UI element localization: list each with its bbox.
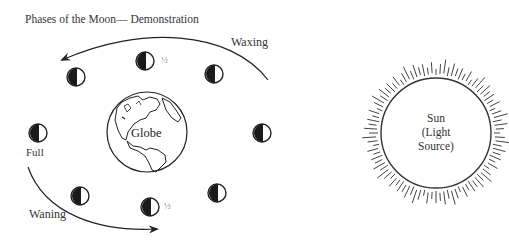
moon-left-icon (29, 124, 47, 142)
sun-label-line2: (Light (395, 125, 477, 139)
moon-top-right-icon (205, 65, 223, 83)
waning-label: Waning (29, 207, 66, 222)
sun-label-line3: Source) (395, 139, 477, 153)
moon-bottom-icon (141, 198, 159, 216)
moon-top-left-icon (67, 68, 85, 86)
half-label-top: ½ (161, 55, 168, 65)
moon-bottom-right-icon (208, 184, 226, 202)
half-label-bottom: ½ (164, 201, 171, 211)
waxing-label: Waxing (231, 35, 268, 50)
sun-label-line1: Sun (395, 111, 477, 125)
moon-top-icon (136, 52, 154, 70)
moon-bottom-left-icon (71, 187, 89, 205)
globe-label: Globe (131, 126, 162, 141)
sun-label: Sun (Light Source) (395, 111, 477, 153)
full-label: Full (26, 146, 44, 158)
moon-right-icon (253, 124, 271, 142)
